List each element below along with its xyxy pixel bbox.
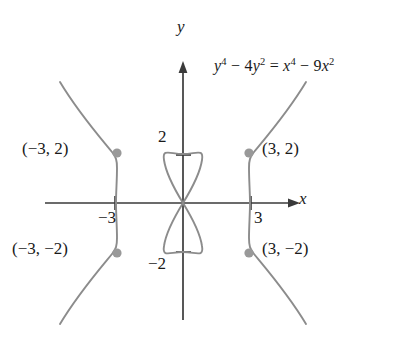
marker-point-neg3-neg2 <box>112 248 121 257</box>
equation-equals: = <box>270 57 279 74</box>
equation-minus1: − 4 <box>231 57 253 74</box>
y-tick-label-2: 2 <box>158 128 167 145</box>
point-label-neg3-neg2: (−3, −2) <box>12 240 68 257</box>
curve-plot <box>0 0 418 346</box>
x-tick-label-3: 3 <box>254 209 263 226</box>
y-axis <box>179 61 188 320</box>
x-tick-label-neg3: −3 <box>98 209 116 226</box>
equation-lhs-exp1: 4 <box>221 56 226 67</box>
equation-rhs-var2: x <box>322 57 329 74</box>
x-axis-label: x <box>299 190 307 207</box>
point-label-neg3-2: (−3, 2) <box>22 140 68 157</box>
equation-rhs-exp2: 2 <box>329 56 334 67</box>
equation-lhs-var2: y <box>253 57 260 74</box>
equation-annotation: y4 − 4y2 = x4 − 9x2 <box>214 57 334 74</box>
equation-lhs-exp2: 2 <box>260 56 265 67</box>
equation-rhs-exp1: 4 <box>290 56 295 67</box>
y-tick-label-neg2: −2 <box>148 255 166 272</box>
x-axis <box>45 199 300 208</box>
y-axis-label: y <box>177 18 185 35</box>
marker-point-neg3-2 <box>112 148 121 157</box>
graph-figure: y4 − 4y2 = x4 − 9x2 y x 2 −2 −3 3 (−3, 2… <box>0 0 418 346</box>
marker-point-3-2 <box>244 148 253 157</box>
marker-point-3-neg2 <box>244 248 253 257</box>
point-label-3-2: (3, 2) <box>262 140 299 157</box>
equation-minus2: − 9 <box>300 57 322 74</box>
point-label-3-neg2: (3, −2) <box>262 240 308 257</box>
